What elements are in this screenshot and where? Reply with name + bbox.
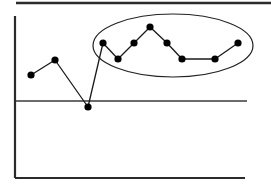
chart-figure (0, 0, 271, 187)
line-chart-canvas (0, 0, 271, 187)
data-point (211, 55, 218, 62)
data-point (27, 71, 34, 78)
data-point (84, 103, 91, 110)
data-point (51, 56, 58, 63)
data-point (99, 39, 106, 46)
data-point (163, 39, 170, 46)
data-point (146, 23, 153, 30)
data-point (114, 55, 121, 62)
data-point (130, 39, 137, 46)
chart-background (0, 0, 271, 187)
data-point (178, 55, 185, 62)
data-point (234, 39, 241, 46)
